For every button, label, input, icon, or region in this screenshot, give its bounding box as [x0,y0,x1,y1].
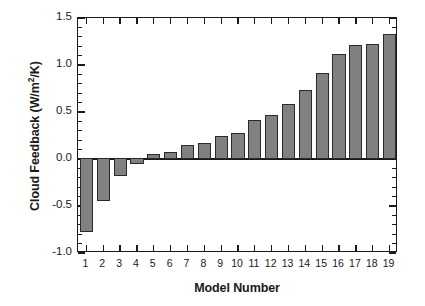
x-tick [355,245,356,251]
y-tick-label: 1.0 [32,58,72,70]
bar [147,154,160,159]
x-tick-top [372,18,373,24]
bar [97,158,110,200]
x-tick-label: 19 [376,258,402,269]
x-tick-top [237,18,238,24]
y-tick-label: -0.5 [32,199,72,211]
x-tick-top [221,18,222,24]
y-tick-minor-right [392,177,396,178]
x-tick [322,245,323,251]
y-tick-label: 0.0 [32,152,72,164]
y-tick-minor-right [392,243,396,244]
x-tick [187,245,188,251]
y-tick-label: 1.5 [32,11,72,23]
x-tick-top [389,18,390,24]
y-tick-minor-right [392,196,396,197]
y-tick-major-right [389,252,396,253]
x-tick [288,245,289,251]
bar [114,158,127,176]
bar [366,44,379,159]
y-tick-minor-right [392,215,396,216]
y-tick-minor-right [392,234,396,235]
y-tick-minor [78,140,82,141]
x-tick [254,245,255,251]
x-tick-top [254,18,255,24]
x-tick-top [338,18,339,24]
y-tick-minor-right [392,27,396,28]
y-tick-minor [78,36,82,37]
x-tick [119,245,120,251]
y-tick-minor-right [392,224,396,225]
y-tick-minor [78,55,82,56]
x-axis-title: Model Number [77,281,397,295]
bar [80,158,93,231]
x-tick-top [271,18,272,24]
y-tick-major [78,64,85,65]
y-tick-major-right [389,205,396,206]
y-tick-minor [78,83,82,84]
x-tick [204,245,205,251]
x-tick [372,245,373,251]
bar [130,158,143,164]
y-tick-minor-right [392,168,396,169]
plot-inner [78,18,396,251]
y-axis-title-superscript: 2 [26,78,36,83]
bar [265,115,278,159]
y-tick-minor [78,93,82,94]
plot-area [77,17,397,252]
y-axis-title-main: Cloud Feedback (W/m [28,82,42,211]
x-tick-top [322,18,323,24]
y-tick-minor [78,121,82,122]
x-tick [221,245,222,251]
bar [332,54,345,159]
y-tick-minor [78,27,82,28]
bar [349,45,362,159]
x-tick-top [170,18,171,24]
bar [164,152,177,159]
x-tick [237,245,238,251]
bar [198,143,211,159]
x-tick-top [305,18,306,24]
y-tick-minor [78,102,82,103]
y-tick-major [78,111,85,112]
bar [299,90,312,159]
y-tick-label: -1.0 [32,246,72,258]
x-tick [103,245,104,251]
bar [231,133,244,159]
bar [248,120,261,159]
y-axis-title: Cloud Feedback (W/m2/K) [26,16,42,256]
x-tick [305,245,306,251]
x-tick [86,245,87,251]
x-tick-top [288,18,289,24]
x-tick-top [187,18,188,24]
y-tick-minor-right [392,187,396,188]
x-tick-top [355,18,356,24]
bar [215,136,228,160]
bar [316,73,329,159]
x-tick-top [86,18,87,24]
x-tick-top [103,18,104,24]
bar [383,34,396,159]
x-tick [170,245,171,251]
y-tick-minor [78,243,82,244]
x-tick [136,245,137,251]
x-tick-top [119,18,120,24]
y-tick-label: 0.5 [32,105,72,117]
x-tick [389,245,390,251]
x-tick-top [136,18,137,24]
y-tick-minor [78,149,82,150]
y-tick-major [78,17,85,18]
x-tick [271,245,272,251]
x-tick [338,245,339,251]
x-tick [153,245,154,251]
y-tick-minor [78,130,82,131]
y-tick-minor [78,234,82,235]
y-tick-minor [78,74,82,75]
y-tick-minor [78,46,82,47]
bar [282,104,295,159]
bar [181,145,194,159]
y-tick-major [78,252,85,253]
x-tick-top [204,18,205,24]
figure: Cloud Feedback (W/m2/K) Model Number 1.5… [0,0,425,306]
x-tick-top [153,18,154,24]
